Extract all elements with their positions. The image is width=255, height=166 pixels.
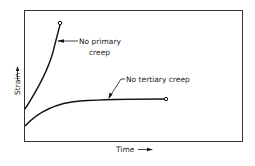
x-axis-arrow-icon	[147, 148, 153, 151]
rupture-marker-1	[58, 21, 61, 24]
creep-diagram: No primary creep No tertiary creep Strai…	[0, 0, 255, 166]
x-axis-label: Time	[115, 145, 135, 154]
y-axis-arrow-icon	[16, 66, 19, 71]
annotation-no-primary-line1: No primary	[79, 37, 121, 46]
annotation-no-primary-line2: creep	[89, 48, 110, 57]
leader-arrow-1	[57, 39, 64, 42]
end-marker-2	[164, 97, 167, 100]
annotation-no-tertiary: No tertiary creep	[126, 75, 190, 84]
curve-no-tertiary-creep	[25, 99, 164, 126]
curve-no-primary-creep	[25, 25, 60, 109]
